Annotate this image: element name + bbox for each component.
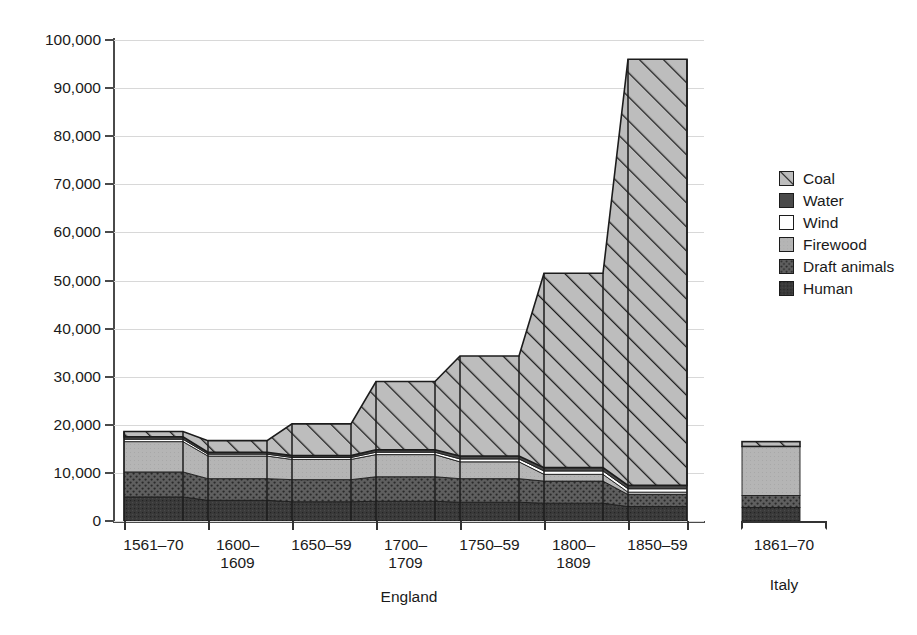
x-tick-mark [687, 521, 689, 530]
y-tick-mark [105, 328, 113, 330]
y-tick-mark [105, 135, 113, 137]
y-tick-mark [105, 231, 113, 233]
y-tick-mark [105, 424, 113, 426]
group-label-england: England [381, 588, 438, 606]
stacked-area-england [114, 40, 704, 521]
y-tick-mark [105, 87, 113, 89]
x-tick-mark [124, 521, 126, 530]
italy-bar-segment-firewood [742, 446, 800, 495]
x-tick-mark [544, 521, 546, 530]
legend-item-human[interactable]: Human [779, 281, 894, 297]
italy-bracket-arms [741, 521, 827, 530]
legend-swatch-solid-dark-icon [779, 281, 794, 296]
italy-bar-segment-coal [742, 442, 800, 447]
y-tick-label: 100,000 [45, 32, 101, 48]
x-tick-label: 1650–59 [291, 536, 351, 554]
legend-label: Wind [803, 215, 838, 231]
legend-item-draft-animals[interactable]: Draft animals [779, 259, 894, 275]
italy-bar-segment-draft-animals [742, 496, 800, 508]
x-tick-mark [376, 521, 378, 530]
legend-swatch-white-icon [779, 215, 794, 230]
y-tick-mark [105, 472, 113, 474]
y-tick-label: 30,000 [54, 369, 101, 385]
y-tick-mark [105, 183, 113, 185]
y-tick-label: 60,000 [54, 225, 101, 241]
legend-swatch-dots-icon [779, 259, 794, 274]
legend-label: Human [803, 281, 853, 297]
y-tick-label: 40,000 [54, 321, 101, 337]
y-tick-label: 50,000 [54, 273, 101, 289]
legend-label: Water [803, 193, 844, 209]
x-tick-mark [460, 521, 462, 530]
y-tick-label: 70,000 [54, 177, 101, 193]
x-tick-label: 1600– 1609 [216, 536, 259, 572]
x-tick-mark [208, 521, 210, 530]
y-tick-label: 10,000 [54, 465, 101, 481]
italy-bar-segment-human [742, 508, 800, 521]
legend-item-coal[interactable]: Coal [779, 171, 894, 187]
x-tick-label: 1561–70 [123, 536, 183, 554]
x-tick-label-italy: 1861–70 [754, 536, 814, 554]
legend-item-firewood[interactable]: Firewood [779, 237, 894, 253]
group-label-italy: Italy [770, 576, 798, 594]
chart-figure: 010,00020,00030,00040,00050,00060,00070,… [0, 0, 917, 635]
x-tick-mark [628, 521, 630, 530]
y-tick-label: 0 [92, 513, 101, 529]
x-tick-label: 1800– 1809 [552, 536, 595, 572]
x-tick-label: 1850–59 [627, 536, 687, 554]
y-tick-label: 80,000 [54, 128, 101, 144]
x-tick-label: 1750–59 [459, 536, 519, 554]
legend-swatch-solid-mid-icon [779, 193, 794, 208]
legend-item-wind[interactable]: Wind [779, 215, 894, 231]
legend-swatch-solid-light-icon [779, 237, 794, 252]
y-tick-mark [105, 376, 113, 378]
legend-item-water[interactable]: Water [779, 193, 894, 209]
x-tick-mark [292, 521, 294, 530]
legend-label: Draft animals [803, 259, 894, 275]
y-tick-mark [105, 39, 113, 41]
y-tick-label: 20,000 [54, 417, 101, 433]
legend-label: Firewood [803, 237, 867, 253]
y-tick-mark [105, 520, 113, 522]
chart-legend: CoalWaterWindFirewoodDraft animalsHuman [779, 171, 894, 297]
y-tick-mark [105, 280, 113, 282]
legend-label: Coal [803, 171, 835, 187]
gridline [114, 521, 704, 522]
x-tick-label: 1700– 1709 [384, 536, 427, 572]
plot-area [114, 40, 704, 521]
legend-swatch-hatch-icon [779, 171, 794, 186]
y-tick-label: 90,000 [54, 80, 101, 96]
